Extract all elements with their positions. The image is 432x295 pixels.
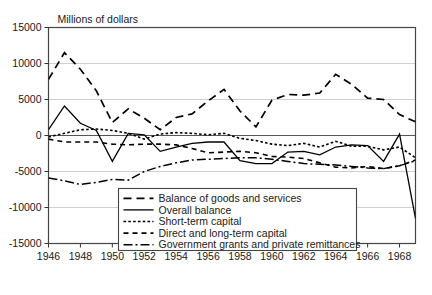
xtick-label-1968: 1968 [388,250,412,262]
xtick-label-1962: 1962 [292,250,316,262]
xtick-label-1960: 1960 [260,250,284,262]
series-line-3 [49,139,416,169]
xtick-label-1954: 1954 [164,250,188,262]
legend-label-2: Short-term capital [159,215,242,227]
legend-label-1: Overall balance [159,204,232,216]
xtick-label-1958: 1958 [228,250,252,262]
chart-title: Millions of dollars [58,13,139,25]
ytick-label-15000: 15000 [12,21,41,33]
ytick-label--5000: -5000 [15,165,42,177]
ytick-label-10000: 10000 [12,57,41,69]
xtick-label-1946: 1946 [37,250,61,262]
legend-label-3: Direct and long-term capital [159,227,287,239]
ytick-label-0: 0 [36,129,42,141]
xtick-label-1952: 1952 [133,250,157,262]
chart-container: 150001000050000-5000-10000-1500019461948… [0,0,432,295]
xtick-label-1948: 1948 [69,250,93,262]
xtick-label-1964: 1964 [324,250,348,262]
xtick-label-1956: 1956 [196,250,220,262]
legend-label-4: Government grants and private remittance… [159,238,361,250]
xtick-label-1966: 1966 [356,250,380,262]
ytick-label--15000: -15000 [9,237,42,249]
legend-label-0: Balance of goods and services [159,192,302,204]
ytick-label--10000: -10000 [9,201,42,213]
xtick-label-1950: 1950 [101,250,125,262]
ytick-label-5000: 5000 [18,93,42,105]
series-line-0 [49,53,416,130]
line-chart: 150001000050000-5000-10000-1500019461948… [0,0,432,295]
